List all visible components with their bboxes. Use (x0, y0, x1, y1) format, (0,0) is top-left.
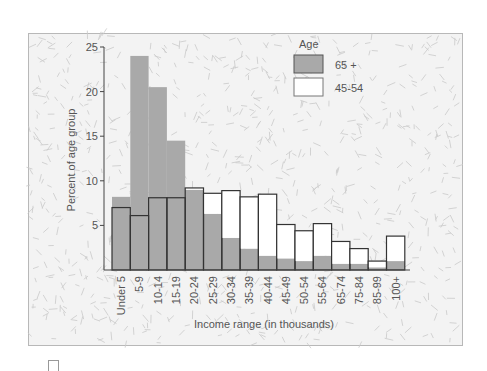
y-tick-label: 20 (86, 86, 98, 98)
bar-45-54-fill (350, 249, 368, 264)
x-tick-label: 85-99 (371, 276, 383, 304)
bar-65plus (332, 264, 350, 270)
x-tick-label: 55-64 (316, 276, 328, 304)
bar-65plus (130, 56, 148, 270)
x-tick-label: 75-84 (353, 276, 365, 304)
bar-65plus (387, 261, 405, 270)
bar-45-54-fill (222, 191, 240, 238)
bar-45-54-fill (240, 197, 258, 249)
legend-label-45-54: 45-54 (335, 82, 363, 94)
bar-45-54-fill (387, 236, 405, 261)
y-tick-label: 5 (92, 219, 98, 231)
y-axis-title: Percent of age group (65, 109, 77, 212)
bar-65plus (185, 190, 203, 270)
x-tick-label: 5-9 (133, 276, 145, 292)
x-tick-label: Under 5 (115, 276, 127, 315)
bar-65plus (277, 258, 295, 270)
x-tick-label: 40-44 (262, 276, 274, 304)
legend-swatch-65plus (294, 55, 323, 73)
x-tick-label: 65-74 (335, 276, 347, 304)
x-axis-title: Income range (in thousands) (194, 318, 334, 330)
bar-65plus (149, 87, 167, 270)
x-tick-label: 100+ (390, 276, 402, 301)
document-icon (48, 360, 59, 371)
x-tick-label: 20-24 (188, 276, 200, 304)
x-tick-label: 45-49 (280, 276, 292, 304)
x-tick-label: 25-29 (207, 276, 219, 304)
bar-45-54-fill (368, 261, 386, 267)
bar-65plus (313, 256, 331, 270)
bar-65plus (222, 238, 240, 270)
bar-45-54-fill (295, 231, 313, 261)
bar-45-54-fill (313, 224, 331, 256)
x-tick-label: 50-54 (298, 276, 310, 304)
bar-65plus (295, 261, 313, 270)
x-tick-label: 10-14 (152, 276, 164, 304)
bar-65plus (167, 141, 185, 270)
y-tick-label: 15 (86, 130, 98, 142)
y-tick-label: 25 (86, 41, 98, 53)
bar-45-54-fill (258, 194, 276, 256)
bar-45-54-fill (204, 193, 222, 214)
bar-45-54-fill (332, 241, 350, 263)
bar-65plus (350, 264, 368, 270)
bar-65plus (240, 249, 258, 270)
x-tick-label: 15-19 (170, 276, 182, 304)
bar-65plus (204, 214, 222, 270)
bar-65plus (258, 256, 276, 270)
y-tick-label: 10 (86, 175, 98, 187)
x-tick-label: 35-39 (243, 276, 255, 304)
bar-45-54-fill (277, 225, 295, 259)
x-tick-label: 30-34 (225, 276, 237, 304)
legend-title: Age (299, 38, 319, 50)
legend-label-65plus: 65 + (335, 59, 357, 71)
legend-swatch-45-54 (294, 78, 323, 96)
